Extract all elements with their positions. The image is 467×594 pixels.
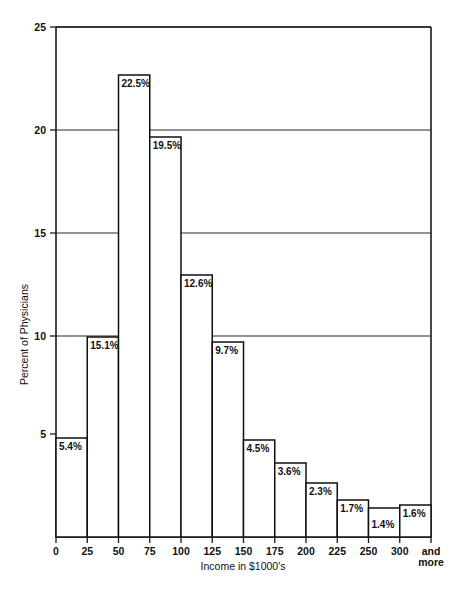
y-tick-label-10: 10	[34, 330, 46, 342]
y-tick-label-5: 5	[40, 428, 46, 440]
bar-25-50	[87, 337, 118, 537]
x-tick-label-75: 75	[144, 545, 156, 557]
y-axis-title: Percent of Physicians	[18, 284, 30, 385]
x-tick-label-125: 125	[203, 545, 221, 557]
bar-value-label: 15.1%	[90, 340, 118, 351]
bar-0-25	[56, 438, 87, 537]
x-tick-label-200: 200	[297, 545, 315, 557]
x-tick-label-25: 25	[81, 545, 93, 557]
bar-value-label: 3.6%	[278, 466, 301, 477]
chart-svg: Percent of Physicians 25 20 15 10 5	[0, 0, 467, 594]
bar-50-75	[119, 75, 150, 537]
bar-150-175	[244, 440, 275, 537]
x-tick-label-0: 0	[53, 545, 59, 557]
bar-100-125	[181, 275, 212, 537]
y-tick-label-15: 15	[34, 227, 46, 239]
x-tick-label-175: 175	[266, 545, 284, 557]
x-tick-label-150: 150	[235, 545, 253, 557]
bar-125-150	[212, 342, 243, 537]
bar-value-label: 1.7%	[340, 503, 363, 514]
y-tick-labels: 25 20 15 10 5	[34, 21, 46, 440]
x-tick-label-and-more-line2: more	[418, 556, 444, 568]
bar-value-label: 2.3%	[309, 486, 332, 497]
x-axis-title: Income in $1000's	[201, 560, 286, 572]
bar-value-label: 1.6%	[403, 508, 426, 519]
bar-75-100	[150, 137, 181, 537]
bar-series: 5.4%15.1%22.5%19.5%12.6%9.7%4.5%3.6%2.3%…	[56, 75, 431, 537]
histogram-chart: Percent of Physicians 25 20 15 10 5	[0, 0, 467, 594]
bar-value-label: 4.5%	[247, 443, 270, 454]
x-tick-marks	[56, 537, 431, 543]
y-tick-label-20: 20	[34, 124, 46, 136]
y-tick-label-25: 25	[34, 21, 46, 33]
x-tick-label-250: 250	[360, 545, 378, 557]
y-tick-marks	[50, 27, 56, 434]
bar-value-label: 22.5%	[122, 78, 150, 89]
bar-value-label: 9.7%	[215, 345, 238, 356]
bar-value-label: 19.5%	[153, 140, 181, 151]
x-tick-label-225: 225	[328, 545, 346, 557]
x-tick-label-50: 50	[113, 545, 125, 557]
bar-value-label: 1.4%	[372, 519, 395, 530]
x-tick-label-300: 300	[391, 545, 409, 557]
bar-value-label: 12.6%	[184, 278, 212, 289]
bar-value-label: 5.4%	[59, 441, 82, 452]
x-tick-label-100: 100	[172, 545, 190, 557]
